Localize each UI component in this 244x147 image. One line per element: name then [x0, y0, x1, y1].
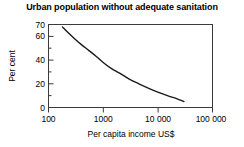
y-axis-title: Per cent	[7, 50, 17, 82]
y-tick-label-20: 20	[36, 79, 46, 89]
y-axis-ticks	[49, 25, 54, 108]
y-tick-label-0: 0	[40, 103, 45, 113]
x-tick-label-10000: 10 000	[145, 114, 171, 124]
y-tick-label-60: 60	[36, 31, 46, 41]
x-tick-label-100000: 100 000	[196, 114, 227, 124]
x-tick-labels: 100 1000 10 000 100 000	[41, 114, 226, 124]
y-tick-label-40: 40	[36, 55, 46, 65]
x-axis-title: Per capita income US$	[88, 129, 175, 139]
chart-plot-area: 70 60 40 20 0 100 1000 10 000 100 000 Pe…	[0, 0, 244, 147]
chart-figure: Urban population without adequate sanita…	[0, 0, 244, 147]
y-tick-label-70: 70	[36, 20, 46, 30]
x-tick-label-100: 100	[41, 114, 55, 124]
y-tick-labels: 70 60 40 20 0	[36, 20, 46, 113]
x-axis-ticks	[49, 108, 213, 113]
data-series-line	[62, 27, 183, 102]
x-tick-label-1000: 1000	[94, 114, 113, 124]
